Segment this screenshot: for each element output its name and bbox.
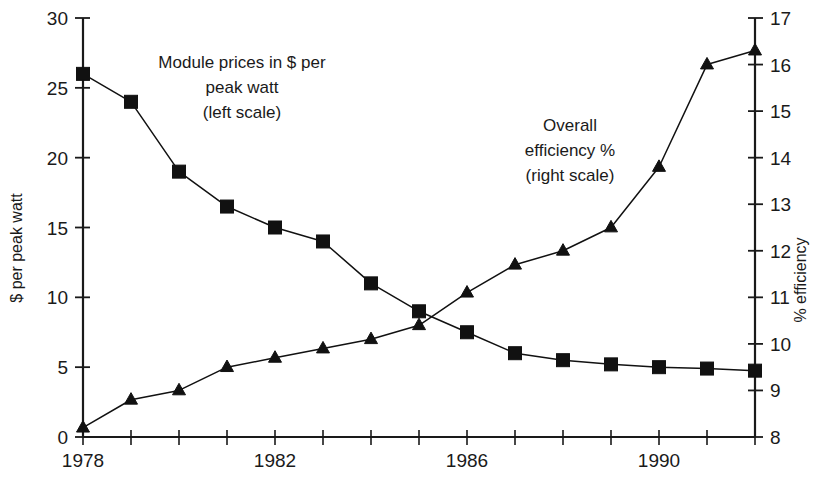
annotation-line: Overall xyxy=(543,116,597,135)
annotation-line: (left scale) xyxy=(203,103,281,122)
x-axis-tick-label: 1982 xyxy=(254,450,296,471)
data-point-triangle xyxy=(461,286,474,298)
solar-pv-price-efficiency-chart: 051015202530 891011121314151617 19781982… xyxy=(0,0,823,481)
data-point-triangle xyxy=(653,160,666,172)
data-point-square xyxy=(317,235,330,248)
data-point-square xyxy=(365,277,378,290)
y2-axis-tick-label: 8 xyxy=(770,427,781,448)
y2-axis-tick-label: 13 xyxy=(770,194,791,215)
annotation-line: efficiency % xyxy=(525,141,615,160)
x-axis-tick-label: 1990 xyxy=(638,450,680,471)
y2-axis-tick-label: 16 xyxy=(770,55,791,76)
data-point-triangle xyxy=(413,318,426,330)
y-axis-tick-label: 15 xyxy=(47,218,68,239)
data-point-square xyxy=(173,165,186,178)
chart-container: 051015202530 891011121314151617 19781982… xyxy=(0,0,823,481)
annotation-right-series-label: Overallefficiency %(right scale) xyxy=(525,116,615,185)
data-point-square xyxy=(413,305,426,318)
y2-axis-tick-label: 9 xyxy=(770,380,781,401)
data-point-square xyxy=(269,221,282,234)
data-point-triangle xyxy=(77,421,90,433)
data-series-group xyxy=(77,43,762,432)
y-axis-tick-label: 0 xyxy=(57,427,68,448)
data-point-square xyxy=(653,361,666,374)
annotation-line: peak watt xyxy=(206,78,279,97)
y-axis-title: $ per peak watt xyxy=(8,193,25,303)
data-point-square xyxy=(605,358,618,371)
data-point-square xyxy=(77,67,90,80)
y2-axis-tick-label: 14 xyxy=(770,148,792,169)
series-1 xyxy=(77,67,762,377)
x-axis-tick-label: 1986 xyxy=(446,450,488,471)
y2-axis-tick-label: 15 xyxy=(770,101,791,122)
y-axis-tick-label: 30 xyxy=(47,8,68,29)
data-point-triangle xyxy=(749,43,762,55)
annotation-left-series-label: Module prices in $ perpeak watt(left sca… xyxy=(158,53,326,122)
y2-axis-tick-label: 12 xyxy=(770,241,791,262)
y-axis-tick-label: 25 xyxy=(47,78,68,99)
annotation-line: (right scale) xyxy=(526,166,615,185)
y-axis-tick-label: 10 xyxy=(47,287,68,308)
annotation-line: Module prices in $ per xyxy=(158,53,326,72)
y2-axis-title: % efficiency xyxy=(792,237,809,322)
y2-axis-tick-label: 17 xyxy=(770,8,791,29)
data-point-square xyxy=(749,364,762,377)
x-axis-tick-label: 1978 xyxy=(62,450,104,471)
data-point-square xyxy=(125,95,138,108)
chart-annotations: Module prices in $ perpeak watt(left sca… xyxy=(158,53,615,185)
y2-axis-tick-label: 10 xyxy=(770,334,791,355)
data-point-square xyxy=(701,362,714,375)
data-point-square xyxy=(509,347,522,360)
y-axis-tick-label: 5 xyxy=(57,357,68,378)
y-axis-tick-label: 20 xyxy=(47,148,68,169)
data-point-square xyxy=(221,200,234,213)
data-point-square xyxy=(461,326,474,339)
data-point-square xyxy=(557,354,570,367)
y2-axis-tick-label: 11 xyxy=(770,287,790,308)
